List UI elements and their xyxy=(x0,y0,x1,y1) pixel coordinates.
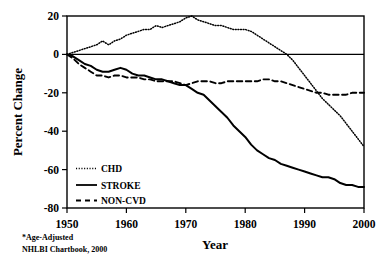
x-tick-label: 1980 xyxy=(234,218,257,230)
x-tick-label: 1960 xyxy=(115,218,138,230)
x-tick-label: 1970 xyxy=(174,218,197,230)
plot-frame xyxy=(67,16,364,208)
y-tick-label: -20 xyxy=(44,87,60,99)
y-axis-ticks: 200-20-40-60-80 xyxy=(44,10,67,214)
legend-entry-noncvd: NON-CVD xyxy=(76,196,146,206)
series-line-non-cvd xyxy=(67,54,364,94)
x-tick-label: 2000 xyxy=(353,218,376,230)
legend-entry-chd: CHD xyxy=(76,164,122,174)
x-axis-ticks: 195019601970198019902000 xyxy=(56,208,376,230)
y-tick-label: -60 xyxy=(44,164,60,176)
footnote-source: NHLBI Chartbook, 2000 xyxy=(22,245,107,254)
y-tick-label: -40 xyxy=(44,125,60,137)
legend-label-chd: CHD xyxy=(101,164,122,174)
x-tick-label: 1950 xyxy=(56,218,79,230)
x-axis-title: Year xyxy=(202,237,228,252)
chart-legend: CHD STROKE NON-CVD xyxy=(76,164,146,206)
death-rate-percent-change-chart: 200-20-40-60-80 195019601970198019902000… xyxy=(0,0,386,269)
legend-label-noncvd: NON-CVD xyxy=(101,196,146,206)
x-tick-label: 1990 xyxy=(293,218,316,230)
y-axis-title: Percent Change xyxy=(10,68,25,156)
legend-label-stroke: STROKE xyxy=(101,181,141,191)
y-tick-label: 0 xyxy=(53,48,59,60)
y-tick-label: -80 xyxy=(44,202,60,214)
footnote-age-adjusted: *Age-Adjusted xyxy=(22,233,74,242)
series-line-chd xyxy=(67,16,364,147)
legend-entry-stroke: STROKE xyxy=(76,181,141,191)
series-group xyxy=(67,16,364,187)
y-tick-label: 20 xyxy=(48,10,60,22)
